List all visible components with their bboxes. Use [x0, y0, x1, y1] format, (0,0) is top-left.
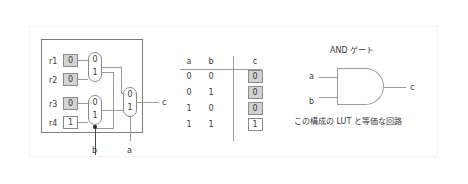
wire-r1-to-mux-top — [78, 60, 88, 61]
junction-dot-b — [93, 125, 97, 129]
truth-table-header-b: b — [200, 55, 222, 68]
and-output-label-c: c — [410, 83, 414, 92]
and-gate-caption: この構成の LUT と等価な回路 — [294, 115, 402, 126]
table-row: 0 1 0 — [178, 84, 266, 100]
and-gate-title: AND ゲート — [330, 44, 374, 55]
table-row: 0 0 0 — [178, 68, 266, 84]
wire-and-input-a — [319, 77, 338, 78]
wire-outmux-to-c — [137, 102, 159, 103]
table-row: 1 1 1 — [178, 116, 266, 132]
lut-circuit-diagram: r1 r2 r3 r4 0 0 0 1 0 1 0 1 0 1 — [41, 39, 191, 157]
wire-select-a-vertical — [130, 117, 131, 141]
lut-input-label-a: a — [127, 146, 132, 155]
and-gate-arc — [364, 68, 384, 105]
wire-select-b-to-muxtop — [102, 72, 114, 73]
wire-muxtop-into-outmux — [121, 93, 124, 94]
truth-table-header-row: a b c — [178, 55, 266, 68]
wire-r2-to-mux-top — [78, 79, 88, 80]
mux-top-sel0: 0 — [89, 55, 101, 64]
truth-table-header-a: a — [178, 55, 200, 68]
cell-b-row0: 0 — [200, 68, 222, 84]
truth-table-header-rule — [180, 69, 262, 70]
register-label-r1: r1 — [49, 55, 57, 68]
cell-c-box-row2[interactable]: 0 — [248, 102, 263, 115]
mux-bottom[interactable]: 0 1 — [88, 95, 102, 125]
wire-select-b-branch-h — [95, 128, 114, 129]
mux-bottom-sel1: 1 — [89, 111, 101, 120]
and-gate-diagram: AND ゲート a b c この構成の LUT と等価な回路 — [292, 35, 432, 145]
lut-input-label-b: b — [92, 146, 97, 155]
cell-b-row2: 0 — [200, 100, 222, 116]
mux-bottom-sel0: 0 — [89, 98, 101, 107]
and-input-label-a: a — [309, 72, 314, 81]
and-gate-body — [337, 68, 365, 105]
wire-r4-to-mux-bottom — [78, 122, 88, 123]
and-input-label-b: b — [309, 97, 314, 106]
cell-a-row2: 1 — [178, 100, 200, 116]
table-row: 1 0 0 — [178, 100, 266, 116]
cell-a-row1: 0 — [178, 84, 200, 100]
cell-c-row1: 0 — [244, 84, 266, 100]
mux-top-sel1: 1 — [89, 68, 101, 77]
cell-c-row2: 0 — [244, 100, 266, 116]
truth-table-grid: a b c 0 0 0 0 1 0 — [178, 55, 266, 132]
cell-c-row3: 1 — [244, 116, 266, 132]
wire-and-input-b — [319, 97, 338, 98]
wire-and-output-c — [384, 87, 406, 88]
wire-select-b-branch-v — [113, 72, 114, 128]
cell-c-box-row3[interactable]: 1 — [248, 118, 263, 131]
cell-c-box-row0[interactable]: 0 — [248, 70, 263, 83]
mux-output-sel0: 0 — [124, 90, 136, 99]
lut-output-label-c: c — [162, 98, 166, 107]
register-value-r3[interactable]: 0 — [63, 97, 78, 110]
truth-table-column-divider — [233, 56, 234, 141]
cell-c-box-row1[interactable]: 0 — [248, 86, 263, 99]
wire-r3-to-mux-bottom — [78, 103, 88, 104]
truth-table: a b c 0 0 0 0 1 0 — [178, 55, 278, 143]
wire-muxtop-out-h — [102, 67, 122, 68]
cell-a-row3: 1 — [178, 116, 200, 132]
register-value-r1[interactable]: 0 — [63, 54, 78, 67]
truth-table-header-c: c — [244, 55, 266, 68]
figure-card: r1 r2 r3 r4 0 0 0 1 0 1 0 1 0 1 — [29, 26, 438, 157]
register-value-r4[interactable]: 1 — [63, 116, 78, 129]
cell-b-row1: 1 — [200, 84, 222, 100]
mux-output-sel1: 1 — [124, 103, 136, 112]
register-label-r2: r2 — [49, 74, 57, 87]
mux-output[interactable]: 0 1 — [123, 87, 137, 117]
wire-muxtop-out-v — [121, 67, 122, 93]
cell-c-row0: 0 — [244, 68, 266, 84]
mux-top[interactable]: 0 1 — [88, 52, 102, 82]
register-value-r2[interactable]: 0 — [63, 73, 78, 86]
cell-b-row3: 1 — [200, 116, 222, 132]
register-label-r3: r3 — [49, 98, 57, 111]
cell-a-row0: 0 — [178, 68, 200, 84]
register-label-r4: r4 — [49, 117, 57, 130]
